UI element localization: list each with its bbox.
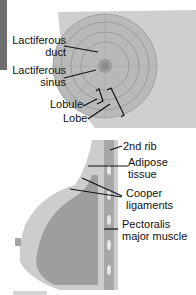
label-line: Lactiferous	[4, 34, 66, 46]
label-2nd-rib: 2nd rib	[123, 140, 157, 152]
label-cooper-ligaments: Cooper ligaments	[126, 187, 173, 211]
label-line: Adipose	[128, 156, 168, 168]
label-line: Cooper	[126, 187, 173, 199]
label-line: sinus	[4, 76, 66, 88]
label-lobule: Lobule	[50, 98, 83, 110]
label-pectoralis-major: Pectoralis major muscle	[122, 218, 187, 242]
label-lactiferous-duct: Lactiferous duct	[4, 34, 66, 58]
nipple	[15, 238, 21, 246]
label-lobe: Lobe	[63, 112, 87, 124]
label-line: tissue	[128, 168, 168, 180]
label-line: major muscle	[122, 230, 187, 242]
label-line: ligaments	[126, 199, 173, 211]
label-line: Pectoralis	[122, 218, 187, 230]
bottom-bar	[13, 291, 47, 295]
label-line: Lactiferous	[4, 64, 66, 76]
label-lactiferous-sinus: Lactiferous sinus	[4, 64, 66, 88]
label-adipose-tissue: Adipose tissue	[128, 156, 168, 180]
label-line: duct	[4, 46, 66, 58]
